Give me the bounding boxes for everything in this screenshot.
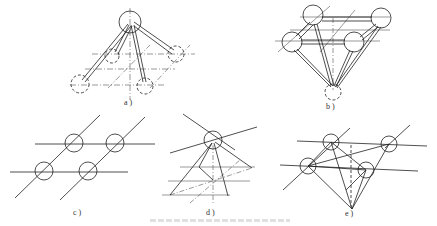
- panel-c-label: c ): [73, 208, 81, 217]
- panel-e-drawing: [280, 125, 427, 209]
- panel-b-label: b ): [326, 102, 335, 111]
- panel-a-label: a ): [124, 98, 132, 107]
- panel-e-label: e ): [345, 209, 353, 218]
- panel-c-drawing: [10, 115, 155, 200]
- panel-a-drawing: [70, 8, 195, 100]
- figure-caption: [150, 219, 290, 222]
- panel-b-drawing: [275, 5, 391, 100]
- diagram-canvas: [0, 0, 437, 226]
- panel-d-drawing: [162, 114, 257, 205]
- panel-d-label: d ): [206, 208, 215, 217]
